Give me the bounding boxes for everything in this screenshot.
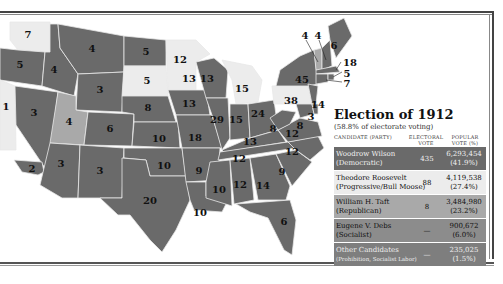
label-ND: 5 — [143, 46, 150, 57]
popular-vote: 6,293,454 — [442, 150, 486, 159]
candidate-party: (Socialist) — [336, 231, 412, 240]
popular-vote: 3,484,980 — [442, 198, 486, 207]
candidate-party: (Prohibition, Socialist Labor) — [336, 255, 412, 264]
label-CO: 6 — [107, 123, 114, 134]
candidate-party: (Progressive/Bull Moose) — [336, 183, 412, 192]
popular-pct: (27.4%) — [442, 183, 486, 192]
label-SD: 5 — [144, 75, 151, 86]
label-FL: 6 — [281, 216, 288, 227]
popular-vote: 235,025 — [442, 246, 486, 255]
label-NJ: 14 — [311, 99, 325, 110]
legend-subtitle: (58.8% of electorate voting) — [334, 123, 486, 131]
label-WA: 7 — [25, 29, 32, 40]
label-VT: 4 — [302, 30, 309, 41]
label-TN: 12 — [232, 153, 246, 164]
header-popular: POPULAR VOTE (%) — [444, 134, 486, 146]
header-candidate: CANDIDATE (PARTY) — [334, 134, 408, 146]
popular-vote: 900,672 — [442, 222, 486, 231]
candidate-name: Woodrow Wilson — [336, 150, 412, 159]
legend-title: Election of 1912 — [334, 108, 486, 122]
label-AR: 9 — [196, 165, 203, 176]
popular-vote: 4,119,538 — [442, 174, 486, 183]
label-NE: 8 — [145, 102, 152, 113]
popular-pct: (41.9%) — [442, 159, 486, 168]
label-CA-south: 2 — [29, 163, 36, 174]
state-CA-north — [0, 80, 16, 150]
legend-row-debs: Eugene V. Debs(Socialist) — 900,672(6.0%… — [334, 218, 486, 242]
legend-header: CANDIDATE (PARTY) ELECTORAL VOTE POPULAR… — [334, 134, 486, 146]
label-NH: 4 — [315, 30, 322, 41]
electoral-vote: — — [412, 227, 442, 235]
legend-row-roosevelt: Theodore Roosevelt(Progressive/Bull Moos… — [334, 170, 486, 194]
label-DE: 3 — [308, 111, 315, 122]
header-electoral: ELECTORAL VOTE — [408, 134, 444, 146]
popular-pct: (1.5%) — [442, 255, 486, 264]
label-AZ: 3 — [58, 158, 65, 169]
popular-pct: (23.2%) — [442, 207, 486, 216]
label-WI: 13 — [200, 73, 214, 84]
state-MI — [222, 60, 262, 104]
label-IA2: 13 — [182, 98, 196, 109]
label-NC: 12 — [285, 146, 299, 157]
candidate-party: (Democratic) — [336, 159, 412, 168]
legend-row-wilson: Woodrow Wilson(Democratic) 435 6,293,454… — [334, 146, 486, 170]
legend-row-taft: William H. Taft(Republican) 8 3,484,980(… — [334, 194, 486, 218]
state-MS — [206, 160, 232, 206]
label-OK: 10 — [157, 160, 171, 171]
candidate-party: (Republican) — [336, 207, 412, 216]
label-ID: 4 — [51, 64, 58, 75]
state-CT — [316, 74, 328, 84]
label-AL: 12 — [233, 179, 247, 190]
legend-row-other: Other Candidates(Prohibition, Socialist … — [334, 242, 486, 266]
popular-pct: (6.0%) — [442, 231, 486, 240]
label-NM: 3 — [97, 165, 104, 176]
label-OR: 5 — [17, 59, 24, 70]
electoral-vote: 8 — [412, 203, 442, 211]
label-MO: 18 — [188, 132, 202, 143]
electoral-vote: — — [412, 251, 442, 259]
label-MI: 15 — [235, 83, 249, 94]
label-KS: 10 — [152, 133, 166, 144]
label-MT: 4 — [89, 43, 96, 54]
label-PA: 38 — [284, 95, 298, 106]
label-IA: 13 — [182, 73, 196, 84]
candidate-name: William H. Taft — [336, 198, 412, 207]
state-FL — [236, 200, 296, 255]
election-legend: Election of 1912 (58.8% of electorate vo… — [334, 108, 486, 266]
label-UT: 4 — [66, 116, 73, 127]
label-NY: 45 — [295, 74, 309, 85]
label-IN: 15 — [229, 114, 243, 125]
state-ME — [328, 18, 352, 58]
electoral-vote: 88 — [412, 179, 442, 187]
label-MN: 12 — [173, 54, 187, 65]
candidate-name: Theodore Roosevelt — [336, 174, 412, 183]
label-CA-north: 1 — [3, 101, 10, 112]
label-MS: 10 — [212, 184, 226, 195]
label-GA: 14 — [256, 180, 270, 191]
electoral-vote: 435 — [412, 155, 442, 163]
label-LA: 10 — [193, 207, 207, 218]
candidate-name: Eugene V. Debs — [336, 222, 412, 231]
label-MD: 8 — [297, 120, 304, 131]
label-IL: 29 — [210, 114, 224, 125]
label-CT: 7 — [344, 78, 351, 89]
label-OH: 24 — [251, 108, 265, 119]
label-SC: 9 — [279, 166, 286, 177]
label-WY: 3 — [97, 84, 104, 95]
label-KY: 13 — [243, 136, 257, 147]
label-NV: 3 — [31, 107, 38, 118]
label-ME: 6 — [331, 40, 338, 51]
label-TX: 20 — [143, 195, 157, 206]
label-MA: 18 — [343, 57, 357, 68]
candidate-name: Other Candidates — [336, 246, 412, 255]
label-WV: 8 — [270, 123, 277, 134]
